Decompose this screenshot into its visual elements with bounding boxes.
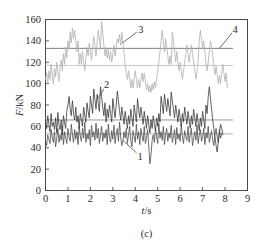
x-tick-label: 9 (245, 193, 250, 204)
annotation-label-1: 1 (138, 151, 143, 162)
y-tick-label: 40 (31, 142, 42, 153)
series-trace-2 (46, 87, 223, 152)
x-tick-label: 2 (88, 193, 93, 204)
y-tick-label: 80 (31, 100, 42, 111)
figure-container: 02040608010012014016001234567891234F/kNt… (0, 0, 265, 247)
x-tick-label: 5 (155, 193, 160, 204)
x-axis-title: t/s (142, 205, 152, 216)
annotation-leader-4 (219, 33, 232, 48)
y-axis-title-unit: /kN (14, 93, 25, 109)
x-tick-label: 3 (110, 193, 115, 204)
y-axis-title: F/kN (14, 93, 25, 117)
figure-caption: (c) (141, 228, 153, 240)
x-tick-label: 0 (43, 193, 48, 204)
y-tick-label: 0 (36, 185, 41, 196)
annotation-leader-1 (123, 140, 137, 153)
y-tick-label: 160 (25, 14, 41, 25)
chart-plot: 02040608010012014016001234567891234F/kNt… (0, 0, 265, 247)
annotation-label-3: 3 (138, 24, 143, 35)
annotation-label-2: 2 (104, 79, 109, 90)
plot-frame (46, 20, 248, 191)
x-tick-label: 4 (133, 193, 139, 204)
series-trace-1 (46, 122, 223, 164)
annotation-leader-3 (122, 32, 137, 43)
y-tick-label: 140 (25, 35, 41, 46)
y-tick-label: 20 (31, 164, 42, 175)
y-tick-label: 100 (25, 78, 41, 89)
annotation-label-4: 4 (233, 24, 239, 35)
x-tick-label: 1 (65, 193, 70, 204)
y-tick-label: 120 (25, 57, 41, 68)
x-axis-title-unit: /s (144, 205, 151, 216)
x-tick-label: 6 (178, 193, 183, 204)
x-tick-label: 7 (200, 193, 205, 204)
x-tick-label: 8 (222, 193, 227, 204)
y-tick-label: 60 (31, 121, 42, 132)
